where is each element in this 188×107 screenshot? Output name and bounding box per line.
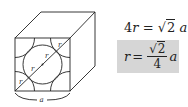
fcc-cube-diagram: r r r r a bbox=[0, 0, 100, 107]
fraction-numerator: √2 bbox=[147, 42, 167, 57]
eq2-radicand: 2 bbox=[157, 41, 166, 56]
eq2-equals: = bbox=[132, 49, 143, 64]
cube-right-face bbox=[70, 12, 95, 91]
center-point bbox=[42, 64, 44, 66]
corner-atom-top-left bbox=[15, 38, 35, 58]
eq1-lhs-var: r bbox=[132, 20, 138, 35]
eq2-lhs-var: r bbox=[124, 49, 130, 64]
eq2-rhs-var: a bbox=[169, 49, 177, 64]
r-label-bottom: r bbox=[19, 78, 23, 86]
eq1-equals: = bbox=[143, 20, 154, 35]
equation-4r-sqrt2-a: 4r = √2 a bbox=[124, 20, 187, 35]
corner-atom-bottom-right bbox=[51, 72, 71, 92]
eq1-rhs-var: a bbox=[179, 20, 187, 35]
eq1-radicand: 2 bbox=[166, 19, 175, 35]
sqrt-symbol: √2 bbox=[149, 41, 165, 56]
fraction: √2 4 bbox=[147, 42, 167, 71]
equation-r-result: r = √2 4 a bbox=[124, 42, 177, 71]
cube-top-face bbox=[15, 12, 95, 38]
sqrt-symbol: √2 bbox=[158, 19, 176, 35]
a-edge-label: a bbox=[40, 96, 44, 104]
r-label-top: r bbox=[58, 41, 62, 49]
fraction-denominator: 4 bbox=[153, 57, 161, 71]
